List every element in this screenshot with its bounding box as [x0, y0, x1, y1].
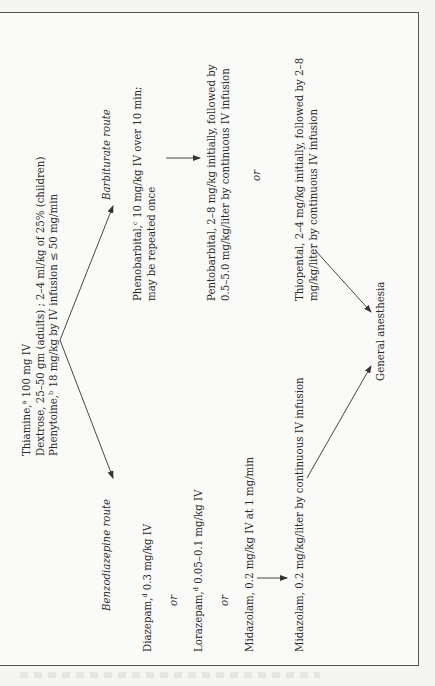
arrow-to-benzodiazepine-route [60, 340, 113, 478]
arrow-thiopental-to-anesthesia [315, 250, 371, 312]
arrow-to-barbiturate-route [60, 206, 113, 340]
arrow-midazolam-to-anesthesia [307, 366, 371, 478]
flow-arrows [0, 0, 435, 686]
